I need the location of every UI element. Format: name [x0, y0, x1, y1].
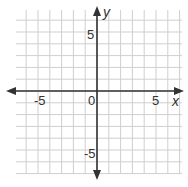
y-axis-up-arrow-icon [93, 6, 101, 16]
coordinate-plane: y x 5 -5 -5 5 0 [0, 0, 188, 187]
y-axis-down-arrow-icon [93, 170, 101, 180]
y-tick-5: 5 [87, 27, 94, 42]
x-axis-left-arrow-icon [6, 87, 16, 95]
grid-lines [16, 10, 182, 174]
x-tick-neg5: -5 [34, 93, 46, 108]
x-tick-5: 5 [152, 93, 159, 108]
x-axis-label: x [171, 93, 180, 109]
y-axis-label: y [102, 4, 111, 20]
origin-label: 0 [88, 93, 95, 108]
y-tick-neg5: -5 [84, 146, 96, 161]
